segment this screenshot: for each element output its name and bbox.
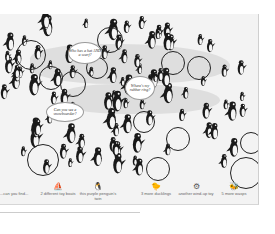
- find-item-label: another wind-up toy: [176, 192, 216, 197]
- penguin: [224, 99, 230, 109]
- find-list: ...can you find... ⛵2 different toy boat…: [0, 182, 258, 204]
- penguin: [181, 87, 188, 99]
- penguin: [207, 39, 215, 52]
- penguin: [124, 20, 132, 32]
- penguin: [240, 92, 246, 101]
- found-circle: [166, 127, 190, 151]
- penguin: [202, 122, 212, 138]
- penguin: [140, 99, 147, 109]
- penguin: [68, 158, 74, 167]
- penguin: [238, 60, 247, 75]
- penguin: [222, 65, 230, 77]
- speech-bubble: Can you see a snowboarder?: [46, 102, 84, 122]
- penguin: [102, 108, 115, 129]
- penguin: [3, 33, 14, 51]
- penguin: [198, 34, 205, 45]
- penguin: [226, 138, 238, 157]
- penguin: [113, 153, 126, 173]
- found-circle: [187, 56, 211, 80]
- penguin: [203, 103, 213, 119]
- penguin: [139, 16, 147, 29]
- penguin: [120, 114, 132, 133]
- penguin: [119, 77, 125, 86]
- puzzle-page: Who has a hat AND a scarf?Where's my rub…: [0, 14, 259, 205]
- penguin: [75, 134, 84, 149]
- penguin: [218, 154, 227, 168]
- found-circle: [161, 51, 185, 75]
- find-intro: ...can you find...: [0, 192, 38, 197]
- penguin: [118, 49, 127, 63]
- speech-bubble: Who has a hat AND a scarf?: [68, 42, 102, 64]
- found-circle: [27, 144, 59, 176]
- penguin: [179, 109, 187, 121]
- find-item-label: 2 different toy boats: [38, 192, 78, 197]
- penguin: [63, 123, 76, 143]
- penguin: [82, 18, 88, 28]
- find-item-label: 5 more wasps: [214, 192, 254, 197]
- penguin: [1, 84, 10, 99]
- penguin: [90, 147, 102, 166]
- find-item-label: this purple penguin's twin: [78, 192, 118, 201]
- penguin: [60, 144, 69, 159]
- penguin: [21, 146, 27, 156]
- penguin: [240, 104, 248, 117]
- found-circle: [146, 157, 170, 181]
- found-circle: [16, 40, 46, 70]
- speech-bubble: Where's my rubber ring?: [125, 76, 155, 100]
- penguin: [133, 133, 146, 153]
- penguin: [144, 31, 155, 49]
- found-circle: [133, 111, 155, 133]
- divider: [0, 212, 140, 213]
- penguin: [113, 91, 126, 112]
- penguin: [123, 98, 129, 108]
- find-item-label: 3 more ducklings: [136, 192, 176, 197]
- penguin: [106, 67, 116, 83]
- found-circle: [240, 132, 259, 154]
- penguin: [76, 146, 86, 163]
- penguin: [37, 14, 49, 29]
- found-circle: [60, 71, 86, 97]
